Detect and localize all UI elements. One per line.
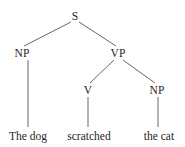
node-np-subject: NP xyxy=(14,47,29,59)
node-s: S xyxy=(72,10,79,22)
edge-s-to-np-subject xyxy=(24,22,71,46)
node-v: V xyxy=(84,84,93,96)
node-np-object: NP xyxy=(149,84,164,96)
node-vp: VP xyxy=(110,47,125,59)
terminal-subject: The dog xyxy=(9,130,47,143)
edge-s-to-vp xyxy=(79,22,116,46)
edge-vp-to-v xyxy=(90,60,114,83)
terminal-object: the cat xyxy=(144,130,174,143)
terminal-verb: scratched xyxy=(67,130,110,143)
edge-vp-to-np-object xyxy=(123,60,155,83)
tree-edges-layer xyxy=(0,0,185,147)
syntax-tree-diagram: S NP VP V NP The dog scratched the cat xyxy=(0,0,185,147)
